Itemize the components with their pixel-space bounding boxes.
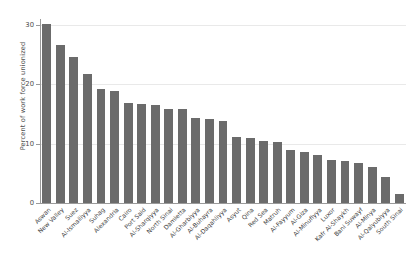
x-axis-labels: AswanNew ValleySuezAl-IsmailiyyaSuhagAle… bbox=[0, 0, 411, 277]
chart-figure: Percent of work force unionized 0102030 … bbox=[0, 0, 411, 277]
